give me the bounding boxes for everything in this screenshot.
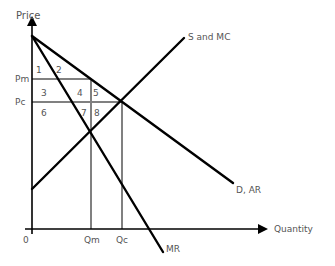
region-3-label: 3	[41, 88, 47, 98]
supply-curve	[32, 38, 184, 189]
demand-curve	[32, 36, 233, 183]
y-axis-label: Price	[16, 10, 40, 21]
qm-label: Qm	[84, 235, 100, 245]
pm-label: Pm	[15, 74, 29, 84]
origin-label: 0	[23, 235, 29, 245]
region-4-label: 4	[77, 88, 83, 98]
region-2-label: 2	[56, 65, 62, 75]
region-1-label: 1	[36, 65, 42, 75]
region-8-label: 8	[94, 108, 100, 118]
region-6-label: 6	[41, 108, 47, 118]
region-7-label: 7	[81, 108, 87, 118]
supply-curve-label: S and MC	[188, 32, 230, 42]
x-axis-arrow-icon	[258, 224, 268, 234]
qc-label: Qc	[116, 235, 128, 245]
region-5-label: 5	[93, 88, 99, 98]
demand-curve-label: D, AR	[236, 185, 261, 195]
pc-label: Pc	[15, 97, 25, 107]
economics-diagram: Price Quantity 0 Pm Pc Qm Qc S and MC D,…	[0, 0, 335, 266]
x-axis-label: Quantity	[274, 224, 314, 234]
marginal-revenue-curve	[32, 36, 163, 252]
mr-curve-label: MR	[166, 244, 180, 254]
